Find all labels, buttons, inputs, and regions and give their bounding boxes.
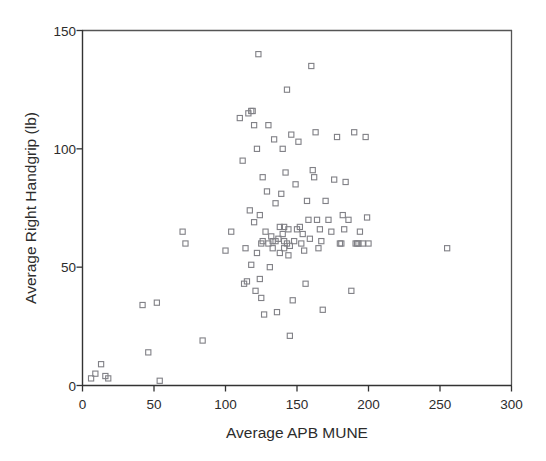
data-point bbox=[287, 333, 292, 338]
data-point bbox=[300, 231, 305, 236]
data-point bbox=[302, 248, 307, 253]
data-point bbox=[323, 198, 328, 203]
data-point bbox=[229, 229, 234, 234]
data-point bbox=[290, 298, 295, 303]
data-point bbox=[296, 139, 301, 144]
data-point bbox=[332, 177, 337, 182]
data-point bbox=[98, 362, 103, 367]
data-point bbox=[293, 182, 298, 187]
data-point bbox=[286, 253, 291, 258]
data-point-group bbox=[88, 52, 449, 384]
data-point bbox=[342, 227, 347, 232]
data-point bbox=[329, 229, 334, 234]
data-point bbox=[307, 236, 312, 241]
data-point bbox=[317, 227, 322, 232]
data-point bbox=[157, 378, 162, 383]
data-point bbox=[240, 158, 245, 163]
data-point bbox=[314, 217, 319, 222]
data-point bbox=[274, 310, 279, 315]
data-point bbox=[284, 87, 289, 92]
data-point bbox=[334, 134, 339, 139]
data-point bbox=[320, 307, 325, 312]
y-axis-ticks bbox=[77, 31, 83, 386]
data-point bbox=[363, 134, 368, 139]
data-point bbox=[180, 229, 185, 234]
data-point bbox=[280, 146, 285, 151]
data-point bbox=[266, 123, 271, 128]
data-point bbox=[299, 241, 304, 246]
data-point bbox=[273, 201, 278, 206]
data-point bbox=[264, 189, 269, 194]
data-point bbox=[319, 239, 324, 244]
scatter-plot-figure: Average Right Handgrip (lb) 050100150 05… bbox=[0, 0, 546, 461]
data-point bbox=[349, 288, 354, 293]
data-point bbox=[310, 168, 315, 173]
data-point bbox=[283, 170, 288, 175]
data-point bbox=[272, 137, 277, 142]
data-point bbox=[254, 146, 259, 151]
data-point bbox=[346, 217, 351, 222]
data-point bbox=[254, 250, 259, 255]
data-point bbox=[243, 246, 248, 251]
data-point bbox=[339, 241, 344, 246]
data-point bbox=[223, 248, 228, 253]
axis-frame bbox=[82, 30, 512, 386]
data-point bbox=[337, 241, 342, 246]
data-point bbox=[256, 52, 261, 57]
data-point bbox=[366, 241, 371, 246]
data-point bbox=[357, 229, 362, 234]
plot-canvas bbox=[0, 0, 546, 461]
data-point bbox=[316, 246, 321, 251]
data-point bbox=[252, 220, 257, 225]
data-point bbox=[303, 281, 308, 286]
data-point bbox=[289, 132, 294, 137]
data-point bbox=[306, 217, 311, 222]
data-point bbox=[352, 130, 357, 135]
data-point bbox=[309, 63, 314, 68]
data-point bbox=[146, 350, 151, 355]
data-point bbox=[343, 179, 348, 184]
data-point bbox=[263, 229, 268, 234]
data-point bbox=[249, 262, 254, 267]
data-point bbox=[364, 215, 369, 220]
data-point bbox=[237, 115, 242, 120]
data-point bbox=[183, 241, 188, 246]
data-point bbox=[252, 123, 257, 128]
data-point bbox=[267, 265, 272, 270]
data-point bbox=[304, 198, 309, 203]
data-point bbox=[354, 241, 359, 246]
data-point bbox=[260, 175, 265, 180]
data-point bbox=[326, 217, 331, 222]
data-point bbox=[200, 338, 205, 343]
x-axis-ticks bbox=[83, 386, 512, 392]
data-point bbox=[259, 295, 264, 300]
data-point bbox=[279, 191, 284, 196]
data-point bbox=[262, 312, 267, 317]
data-point bbox=[247, 208, 252, 213]
x-axis-label: Average APB MUNE bbox=[82, 424, 512, 442]
data-point bbox=[154, 300, 159, 305]
data-point bbox=[340, 213, 345, 218]
data-point bbox=[312, 175, 317, 180]
data-point bbox=[140, 302, 145, 307]
data-point bbox=[445, 246, 450, 251]
data-point bbox=[257, 276, 262, 281]
data-point bbox=[257, 213, 262, 218]
data-point bbox=[253, 288, 258, 293]
data-point bbox=[313, 130, 318, 135]
